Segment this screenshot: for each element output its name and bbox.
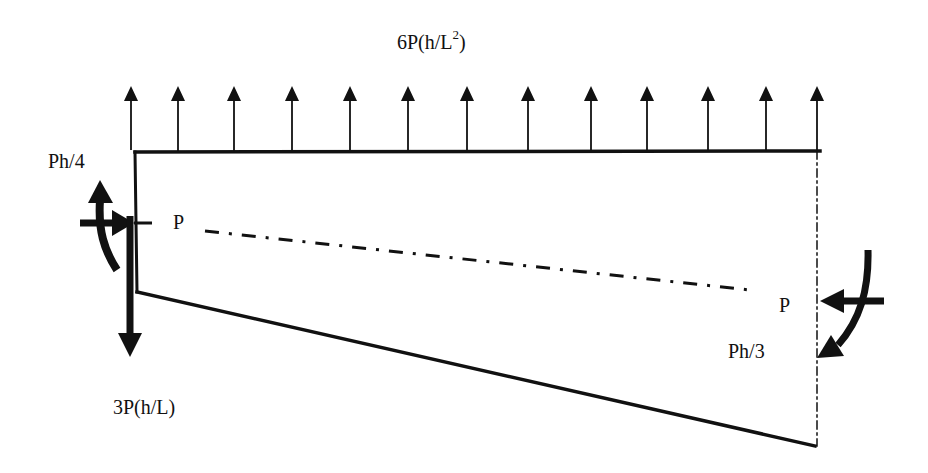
arrowhead-icon <box>171 86 185 101</box>
beam-bottom-edge <box>137 292 815 446</box>
arrowhead-icon <box>810 86 824 101</box>
arrowhead-icon <box>124 86 138 101</box>
arrowhead-icon <box>343 86 357 101</box>
left-moment-label: Ph/4 <box>48 151 85 171</box>
left-axial-force-arrow <box>80 210 152 236</box>
distributed-load-arrows <box>124 86 824 151</box>
arrowhead-icon <box>285 86 299 101</box>
arrowhead-icon <box>759 86 773 101</box>
arrowhead-icon <box>640 86 654 101</box>
left-axial-force-label: P <box>173 212 184 232</box>
arrowhead-icon <box>227 86 241 101</box>
right-axial-force-label: P <box>779 295 790 315</box>
centroid-axis-line <box>205 231 750 290</box>
beam-outline <box>135 151 820 446</box>
left-shear-force-label: 3P(h/L) <box>113 397 175 417</box>
distributed-load-label: 6P(h/L2) <box>397 30 466 52</box>
arrowhead-icon <box>460 86 474 101</box>
arrowhead-icon <box>584 86 598 101</box>
right-moment-label: Ph/3 <box>728 341 765 361</box>
arrowhead-icon <box>701 86 715 101</box>
right-axial-force-arrow <box>820 289 884 313</box>
arrowhead-icon <box>401 86 415 101</box>
beam-top-edge <box>135 151 820 152</box>
arrowhead-icon <box>521 86 535 101</box>
